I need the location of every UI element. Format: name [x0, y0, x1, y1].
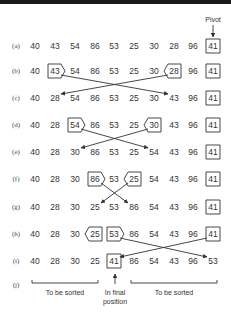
array-value: 28 — [50, 174, 60, 184]
step-row: (g)40283025538654439641 — [12, 200, 220, 214]
left-bracket-label: To be sorted — [46, 289, 85, 296]
array-value: 53 — [109, 41, 119, 51]
array-value: 54 — [149, 256, 159, 266]
array-value: 53 — [109, 174, 119, 184]
array-value: 41 — [208, 202, 218, 212]
row-label: (f) — [13, 175, 21, 183]
quicksort-diagram: Pivot (a)40435486532530289641(b)40435486… — [0, 0, 231, 312]
step-row: (d)40285486532530439641 — [12, 118, 220, 132]
row-label: (e) — [12, 148, 20, 156]
array-value: 25 — [90, 202, 100, 212]
array-value: 28 — [169, 66, 179, 76]
array-value: 53 — [208, 256, 218, 266]
array-value: 30 — [70, 147, 80, 157]
array-value: 25 — [129, 174, 139, 184]
array-value: 30 — [70, 174, 80, 184]
array-value: 43 — [50, 66, 60, 76]
step-row: (b)40435486532530289641 — [12, 64, 220, 78]
array-value: 86 — [90, 93, 100, 103]
array-value: 43 — [169, 256, 179, 266]
array-value: 96 — [188, 202, 198, 212]
right-bracket-label: To be sorted — [155, 289, 194, 296]
array-value: 96 — [188, 66, 198, 76]
row-label: (c) — [12, 94, 20, 102]
array-value: 96 — [188, 41, 198, 51]
rows: (a)40435486532530289641(b)40435486532530… — [12, 39, 220, 268]
array-value: 40 — [30, 256, 40, 266]
array-value: 86 — [90, 147, 100, 157]
array-value: 86 — [90, 41, 100, 51]
array-value: 43 — [169, 147, 179, 157]
array-value: 41 — [208, 41, 218, 51]
footer-row: (j) To be sorted In final position To be… — [13, 274, 217, 306]
array-value: 25 — [129, 93, 139, 103]
array-value: 30 — [149, 41, 159, 51]
array-value: 40 — [30, 41, 40, 51]
array-value: 30 — [149, 93, 159, 103]
array-value: 96 — [188, 256, 198, 266]
array-value: 41 — [208, 66, 218, 76]
row-label: (i) — [13, 257, 20, 265]
array-value: 40 — [30, 147, 40, 157]
array-value: 28 — [50, 147, 60, 157]
row-label: (g) — [12, 203, 21, 211]
array-value: 54 — [70, 66, 80, 76]
array-value: 54 — [70, 41, 80, 51]
array-value: 25 — [129, 147, 139, 157]
array-value: 53 — [109, 229, 119, 239]
step-row: (f)40283086532554439641 — [13, 172, 221, 186]
array-value: 25 — [129, 41, 139, 51]
array-value: 41 — [208, 229, 218, 239]
array-value: 28 — [50, 120, 60, 130]
array-value: 30 — [149, 66, 159, 76]
final-position-line2: position — [103, 298, 127, 306]
array-value: 28 — [50, 93, 60, 103]
array-value: 43 — [169, 120, 179, 130]
array-value: 54 — [149, 202, 159, 212]
array-value: 41 — [208, 93, 218, 103]
array-value: 54 — [149, 147, 159, 157]
array-value: 54 — [149, 229, 159, 239]
row-label: (b) — [12, 67, 21, 75]
step-row: (h)40283025538654439641 — [12, 227, 220, 241]
step-row: (i)40283025418654439653 — [13, 254, 218, 268]
array-value: 86 — [90, 66, 100, 76]
array-value: 41 — [208, 147, 218, 157]
array-value: 86 — [90, 120, 100, 130]
array-value: 96 — [188, 174, 198, 184]
left-bracket — [32, 280, 98, 283]
array-value: 96 — [188, 120, 198, 130]
array-value: 43 — [169, 93, 179, 103]
array-value: 30 — [149, 120, 159, 130]
array-value: 25 — [90, 229, 100, 239]
array-value: 30 — [70, 202, 80, 212]
array-value: 53 — [109, 66, 119, 76]
step-row: (e)40283086532554439641 — [12, 145, 220, 159]
array-value: 86 — [129, 229, 139, 239]
pivot-annotation: Pivot — [205, 16, 221, 38]
array-value: 40 — [30, 93, 40, 103]
row-label: (a) — [12, 42, 20, 50]
row-label: (h) — [12, 230, 21, 238]
array-value: 43 — [169, 174, 179, 184]
array-value: 28 — [169, 41, 179, 51]
row-label: (d) — [12, 121, 21, 129]
array-value: 96 — [188, 147, 198, 157]
array-value: 40 — [30, 120, 40, 130]
right-bracket — [131, 280, 217, 283]
pivot-label: Pivot — [205, 16, 221, 23]
array-value: 53 — [109, 202, 119, 212]
array-value: 43 — [50, 41, 60, 51]
array-value: 25 — [129, 120, 139, 130]
array-value: 96 — [188, 229, 198, 239]
array-value: 40 — [30, 202, 40, 212]
array-value: 86 — [90, 174, 100, 184]
array-value: 28 — [50, 229, 60, 239]
row-label: (j) — [13, 281, 20, 289]
array-value: 53 — [109, 120, 119, 130]
array-value: 41 — [208, 120, 218, 130]
array-value: 40 — [30, 174, 40, 184]
array-value: 41 — [109, 256, 119, 266]
array-value: 28 — [50, 256, 60, 266]
array-value: 30 — [70, 256, 80, 266]
